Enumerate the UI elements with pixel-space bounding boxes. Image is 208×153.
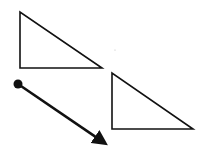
diagram-svg	[0, 0, 208, 153]
diagram-canvas: Translation of a right triangle along a …	[0, 0, 208, 153]
original-triangle	[20, 12, 102, 68]
translated-triangle	[112, 73, 193, 129]
translation-vector-arrow	[18, 84, 104, 143]
noise-speck	[114, 49, 115, 50]
